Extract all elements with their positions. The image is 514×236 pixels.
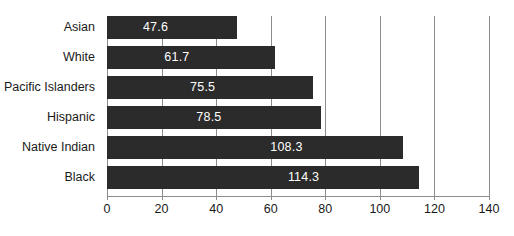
bar-native-indian (107, 136, 403, 159)
category-axis: AsianWhitePacific IslandersHispanicNativ… (0, 16, 101, 196)
x-tick-label-40: 40 (209, 201, 223, 217)
bar-white (107, 46, 275, 69)
bar-chart: AsianWhitePacific IslandersHispanicNativ… (0, 0, 514, 236)
bar-value-label: 78.5 (196, 106, 221, 129)
bar-value-label: 47.6 (143, 16, 168, 39)
category-label-white: White (63, 46, 95, 69)
x-tick-label-120: 120 (424, 201, 445, 217)
plot-area: 47.661.775.578.5108.3114.3 (107, 16, 489, 196)
x-tick-label-140: 140 (479, 201, 500, 217)
x-axis-tick-labels: 020406080100120140 (0, 201, 514, 221)
x-tick-label-80: 80 (318, 201, 332, 217)
gridline-140 (489, 16, 490, 200)
bar-row: 114.3 (107, 166, 489, 189)
x-tick-label-20: 20 (155, 201, 169, 217)
category-label-pacific-islanders: Pacific Islanders (4, 76, 95, 99)
x-tick-label-60: 60 (264, 201, 278, 217)
bar-row: 47.6 (107, 16, 489, 39)
bar-value-label: 75.5 (190, 76, 215, 99)
bar-row: 108.3 (107, 136, 489, 159)
x-tick-label-0: 0 (104, 201, 111, 217)
category-label-black: Black (64, 166, 95, 189)
bar-row: 75.5 (107, 76, 489, 99)
bar-row: 78.5 (107, 106, 489, 129)
category-label-native-indian: Native Indian (22, 136, 95, 159)
bar-value-label: 114.3 (288, 166, 319, 189)
category-label-asian: Asian (64, 16, 95, 39)
bar-row: 61.7 (107, 46, 489, 69)
bar-value-label: 108.3 (270, 136, 302, 159)
bar-value-label: 61.7 (164, 46, 189, 69)
bar-black (107, 166, 419, 189)
x-tick-label-100: 100 (369, 201, 390, 217)
bar-asian (107, 16, 237, 39)
category-label-hispanic: Hispanic (47, 106, 95, 129)
x-axis-line (107, 196, 489, 197)
